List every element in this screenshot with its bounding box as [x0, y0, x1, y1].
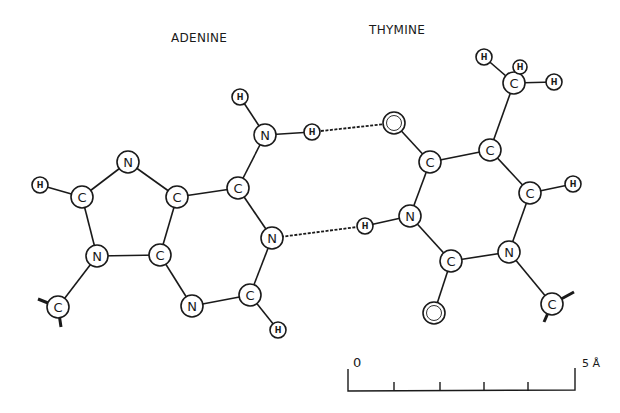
scale-line — [348, 368, 575, 391]
atom-n: N — [181, 295, 203, 317]
svg-text:C: C — [155, 248, 164, 263]
atom-o — [383, 112, 405, 134]
svg-text:H: H — [362, 222, 369, 231]
atom-n: N — [254, 124, 276, 146]
atom-o — [423, 302, 445, 324]
atom-h: H — [513, 60, 527, 74]
covalent-bonds — [40, 57, 573, 330]
svg-text:N: N — [504, 245, 514, 260]
atom-h: H — [270, 322, 286, 338]
atom-h: H — [304, 124, 320, 140]
atom-c: C — [227, 177, 249, 199]
svg-text:H: H — [275, 326, 282, 335]
svg-text:C: C — [53, 300, 62, 315]
atom-c: C — [479, 139, 501, 161]
svg-text:C: C — [446, 254, 455, 269]
svg-text:C: C — [485, 143, 494, 158]
atom-h: H — [565, 176, 581, 192]
atom-c: C — [440, 250, 462, 272]
hydrogen-bond — [312, 123, 394, 132]
svg-text:C: C — [509, 76, 518, 91]
atom-n: N — [86, 245, 108, 267]
hydrogen-bonds — [272, 123, 394, 238]
adenine-title: ADENINE — [171, 31, 227, 45]
svg-text:C: C — [525, 186, 534, 201]
svg-text:H: H — [481, 53, 488, 62]
svg-text:C: C — [547, 297, 556, 312]
atom-c: C — [149, 244, 171, 266]
svg-text:H: H — [237, 93, 244, 102]
svg-text:N: N — [405, 209, 415, 224]
atoms: HNHCNCHNCCNCHNCCCCHHHCHNCCNH — [32, 49, 581, 338]
atom-c: C — [71, 186, 93, 208]
atom-h: H — [357, 218, 373, 234]
svg-text:H: H — [570, 180, 577, 189]
atom-c: C — [166, 186, 188, 208]
svg-text:H: H — [517, 63, 524, 72]
atom-c: C — [239, 284, 261, 306]
atom-n: N — [117, 151, 139, 173]
svg-text:N: N — [187, 299, 197, 314]
thymine-title: THYMINE — [368, 23, 425, 37]
scale-end-label: 5 Å — [582, 357, 600, 370]
svg-text:N: N — [267, 231, 277, 246]
svg-text:H: H — [37, 181, 44, 190]
svg-text:N: N — [123, 155, 133, 170]
atom-n: N — [399, 205, 421, 227]
atom-h: H — [32, 177, 48, 193]
atom-c: C — [519, 182, 541, 204]
scale-bar: 0 5 Å — [348, 355, 600, 391]
hydrogen-bond — [272, 226, 365, 238]
atom-c: C — [47, 296, 69, 318]
atom-n: N — [498, 241, 520, 263]
sugar-bond-stubs — [38, 292, 574, 327]
atom-c: C — [503, 72, 525, 94]
atom-h: H — [546, 74, 562, 90]
atom-n: N — [261, 227, 283, 249]
atom-c: C — [541, 293, 563, 315]
svg-text:C: C — [77, 190, 86, 205]
adenine-thymine-base-pair-diagram: ADENINE THYMINE HNHCNCHNCCNCHNCCCCHHHCHN… — [0, 0, 620, 413]
svg-text:C: C — [425, 155, 434, 170]
svg-text:C: C — [172, 190, 181, 205]
svg-text:H: H — [309, 128, 316, 137]
svg-text:N: N — [92, 249, 102, 264]
svg-text:H: H — [551, 78, 558, 87]
svg-text:C: C — [245, 288, 254, 303]
atom-h: H — [232, 89, 248, 105]
atom-h: H — [476, 49, 492, 65]
atom-c: C — [419, 151, 441, 173]
svg-text:N: N — [260, 128, 270, 143]
scale-start-label: 0 — [353, 355, 361, 370]
svg-text:C: C — [233, 181, 242, 196]
